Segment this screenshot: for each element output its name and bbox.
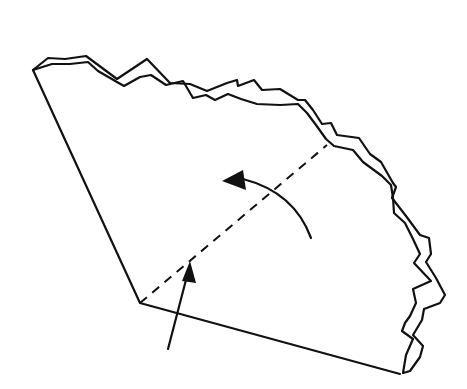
wavy-edge [33, 56, 445, 373]
push-arrow-icon [168, 261, 196, 349]
origami-diagram [0, 0, 467, 389]
curved-fold-arrow-icon [222, 170, 311, 238]
fold-line [140, 145, 327, 303]
paper-outline [33, 70, 400, 374]
